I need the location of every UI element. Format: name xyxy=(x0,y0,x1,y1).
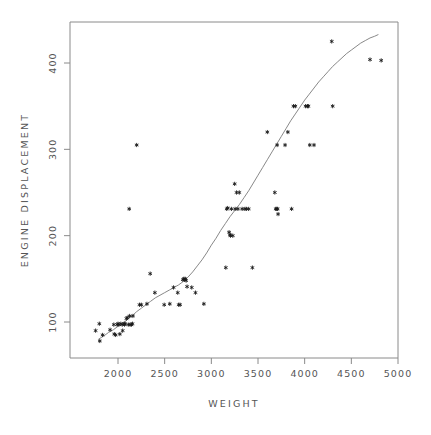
data-point-marker xyxy=(235,190,239,194)
data-point-marker xyxy=(101,333,105,337)
data-point-marker xyxy=(98,322,102,326)
data-point-marker xyxy=(273,190,277,194)
y-axis-ticks xyxy=(64,63,70,322)
data-point-marker xyxy=(112,322,116,326)
data-point-marker xyxy=(230,207,234,211)
data-point-marker xyxy=(202,302,206,306)
x-tick-label: 5000 xyxy=(384,368,413,379)
data-points xyxy=(94,39,383,343)
data-point-marker xyxy=(135,143,139,147)
y-tick-label: 200 xyxy=(47,225,58,246)
data-point-marker xyxy=(190,285,194,289)
plot-frame xyxy=(70,22,398,358)
data-point-marker xyxy=(283,143,287,147)
data-point-marker xyxy=(238,190,242,194)
data-point-marker xyxy=(240,207,244,211)
data-point-marker xyxy=(127,207,131,211)
data-point-marker xyxy=(162,303,166,307)
data-point-marker xyxy=(148,272,152,276)
data-point-marker xyxy=(290,207,294,211)
data-point-marker xyxy=(233,182,237,186)
x-tick-label: 4500 xyxy=(337,368,366,379)
data-point-marker xyxy=(276,212,280,216)
plot-canvas: 2000250030003500400045005000 10020030040… xyxy=(0,0,431,435)
y-axis-title: ENGINE DISPLACEMENT xyxy=(19,113,30,268)
x-tick-label: 2500 xyxy=(150,368,179,379)
x-axis-ticks xyxy=(118,358,398,364)
fit-curve-path xyxy=(98,35,378,340)
y-tick-label: 300 xyxy=(47,139,58,160)
data-point-marker xyxy=(98,339,102,343)
data-point-marker xyxy=(308,143,312,147)
x-axis-title: WEIGHT xyxy=(208,398,260,409)
x-axis-tick-labels: 2000250030003500400045005000 xyxy=(104,368,413,379)
x-tick-label: 3000 xyxy=(197,368,226,379)
y-tick-label: 400 xyxy=(47,52,58,73)
fit-curve xyxy=(98,35,378,340)
data-point-marker xyxy=(266,130,270,134)
x-tick-label: 3500 xyxy=(244,368,273,379)
data-point-marker xyxy=(331,104,335,108)
y-tick-label: 100 xyxy=(47,311,58,332)
data-point-marker xyxy=(330,39,334,43)
data-point-marker xyxy=(379,58,383,62)
x-tick-label: 2000 xyxy=(104,368,133,379)
scatter-plot-figure: 2000250030003500400045005000 10020030040… xyxy=(0,0,431,435)
data-point-marker xyxy=(312,143,316,147)
data-point-marker xyxy=(176,291,180,295)
data-point-marker xyxy=(286,130,290,134)
data-point-marker xyxy=(194,291,198,295)
data-point-marker xyxy=(121,329,125,333)
y-axis-tick-labels: 100200300400 xyxy=(47,52,58,332)
data-point-marker xyxy=(247,207,251,211)
data-point-marker xyxy=(118,332,122,336)
data-point-marker xyxy=(368,57,372,61)
data-point-marker xyxy=(94,329,98,333)
x-tick-label: 4000 xyxy=(290,368,319,379)
data-point-marker xyxy=(153,291,157,295)
data-point-marker xyxy=(185,285,189,289)
data-point-marker xyxy=(251,266,255,270)
data-point-marker xyxy=(224,266,228,270)
data-point-marker xyxy=(168,302,172,306)
